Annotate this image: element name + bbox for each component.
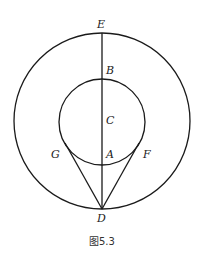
geometry-figure: E B C A G F D 图5.3	[0, 0, 197, 259]
label-B: B	[105, 64, 114, 77]
figure-caption: 图5.3	[89, 236, 115, 247]
tangent-DG	[65, 143, 102, 209]
label-E: E	[96, 18, 105, 31]
label-A: A	[105, 148, 114, 161]
label-F: F	[142, 148, 151, 161]
label-C: C	[106, 114, 115, 127]
label-D: D	[96, 212, 106, 225]
label-G: G	[51, 148, 60, 161]
